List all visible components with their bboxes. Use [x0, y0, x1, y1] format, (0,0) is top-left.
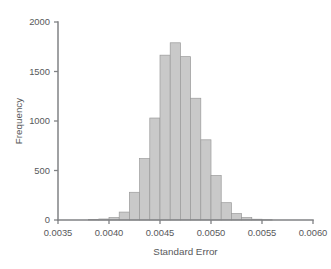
x-axis-label: Standard Error: [153, 246, 218, 257]
y-axis-label: Frequency: [13, 98, 24, 144]
histogram-bar: [170, 43, 180, 220]
x-tick-label: 0.0040: [95, 227, 124, 238]
histogram-bar: [221, 203, 231, 220]
histogram-bar: [191, 98, 201, 220]
standard-error-histogram: 0.00350.00400.00450.00500.00550.0060 050…: [0, 0, 331, 269]
histogram-bar: [119, 212, 129, 220]
y-tick-label: 1000: [29, 115, 50, 126]
histogram-bar: [211, 175, 221, 220]
y-tick-label: 2000: [29, 16, 50, 27]
x-tick-label: 0.0045: [146, 227, 175, 238]
histogram-bar: [129, 192, 139, 220]
y-tick-label: 500: [34, 165, 50, 176]
y-tick-label: 0: [45, 214, 50, 225]
histogram-bar: [160, 55, 170, 220]
y-tick-label: 1500: [29, 66, 50, 77]
histogram-bar: [201, 140, 211, 220]
histogram-bar: [180, 57, 190, 220]
x-tick-label: 0.0060: [299, 227, 328, 238]
histogram-figure: 0.00350.00400.00450.00500.00550.0060 050…: [0, 0, 331, 269]
x-tick-label: 0.0050: [197, 227, 226, 238]
histogram-bar: [140, 159, 150, 220]
histogram-bar: [150, 118, 160, 220]
x-tick-label: 0.0035: [44, 227, 73, 238]
x-tick-label: 0.0055: [248, 227, 277, 238]
histogram-bar: [231, 214, 241, 220]
